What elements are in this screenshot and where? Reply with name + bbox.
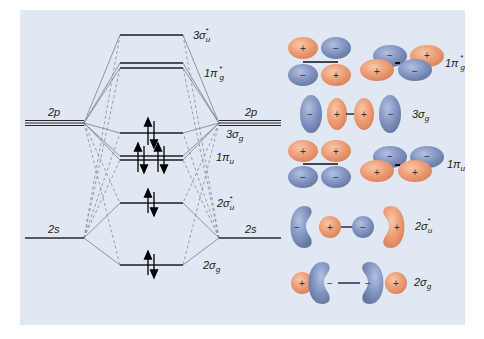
svg-text:+: + xyxy=(327,222,333,233)
label-2sigma-u-star: 2σu* xyxy=(216,194,235,212)
orbital-picture-3sigma-g: − + + − xyxy=(300,95,401,133)
svg-text:−: − xyxy=(412,66,418,77)
svg-text:−: − xyxy=(333,172,339,183)
svg-text:+: + xyxy=(374,167,380,178)
mo-diagram: 2p 2p 2s 2s 3σu* 1πg* 3σg 1πu 2σu* 2σg +… xyxy=(0,0,484,339)
svg-text:+: + xyxy=(374,66,380,77)
svg-text:−: − xyxy=(388,109,394,120)
electron-arrows xyxy=(135,118,168,278)
label-right-2p: 2p xyxy=(244,106,257,118)
svg-text:−: − xyxy=(365,278,371,289)
picture-label-2sigma-g: 2σg xyxy=(413,276,432,291)
label-1pi-u: 1πu xyxy=(216,151,235,166)
svg-text:+: + xyxy=(334,109,340,120)
svg-text:+: + xyxy=(361,109,367,120)
svg-text:−: − xyxy=(333,43,339,54)
left-2p-level xyxy=(25,121,84,126)
svg-text:+: + xyxy=(299,278,305,289)
svg-text:+: + xyxy=(333,146,339,157)
svg-text:−: − xyxy=(327,278,333,289)
svg-text:−: − xyxy=(387,50,393,61)
svg-text:−: − xyxy=(307,109,313,120)
label-right-2s: 2s xyxy=(244,223,257,235)
svg-text:+: + xyxy=(393,278,399,289)
picture-label-1pi-u: 1πu xyxy=(447,158,466,173)
svg-text:+: + xyxy=(394,222,400,233)
svg-text:+: + xyxy=(300,146,306,157)
orbital-picture-2sigma-g: + − − + xyxy=(291,262,407,304)
svg-text:+: + xyxy=(424,50,430,61)
svg-text:+: + xyxy=(300,43,306,54)
dashed-correlation-lines xyxy=(84,35,219,265)
orbital-picture-1pi-g-star: + − − + − + + − xyxy=(288,37,444,86)
label-1pi-g-star: 1πg* xyxy=(204,64,225,82)
label-3sigma-g: 3σg xyxy=(226,128,244,143)
svg-text:−: − xyxy=(360,222,366,233)
mo-levels xyxy=(120,35,183,265)
svg-text:+: + xyxy=(333,70,339,81)
solid-correlation-lines xyxy=(84,35,219,265)
svg-text:−: − xyxy=(300,172,306,183)
orbital-picture-2sigma-u-star: − + − + xyxy=(291,206,405,248)
label-left-2s: 2s xyxy=(47,223,60,235)
svg-text:−: − xyxy=(300,70,306,81)
svg-text:−: − xyxy=(387,151,393,162)
svg-text:−: − xyxy=(424,151,430,162)
orbital-picture-1pi-u: + + − − − − + + xyxy=(288,140,444,188)
svg-text:+: + xyxy=(412,167,418,178)
svg-text:−: − xyxy=(294,222,300,233)
electron-pairs-1pi-u xyxy=(135,143,168,173)
picture-label-3sigma-g: 3σg xyxy=(412,108,430,123)
label-2sigma-g: 2σg xyxy=(202,259,221,274)
picture-label-1pi-g-star: 1πg* xyxy=(445,53,466,72)
label-left-2p: 2p xyxy=(47,106,60,118)
right-2p-level xyxy=(219,121,281,126)
label-3sigma-u-star: 3σu* xyxy=(193,26,211,44)
picture-label-2sigma-u-star: 2σu* xyxy=(414,216,433,235)
